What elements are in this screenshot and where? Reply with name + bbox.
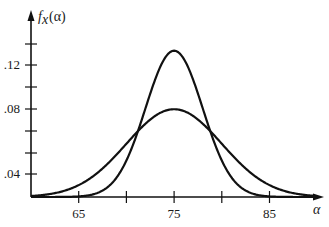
y-tick-label: .08 — [4, 101, 20, 116]
x-axis-title: α — [313, 202, 321, 217]
y-tick-labels: .12.08.04 — [4, 57, 21, 181]
curve-sd5 — [31, 109, 313, 196]
y-axis-arrow-icon — [28, 10, 35, 21]
y-tick-label: .12 — [4, 57, 20, 72]
x-axis-arrow-icon — [313, 194, 324, 201]
x-tick-label: 85 — [263, 206, 276, 221]
density-chart: .12.08.04 657585 fx(α) α — [0, 0, 329, 227]
x-tick-labels: 657585 — [72, 206, 276, 221]
x-tick-label: 75 — [168, 206, 181, 221]
y-axis-title: fx(α) — [38, 9, 66, 27]
curve-sd3 — [31, 51, 313, 197]
y-tick-label: .04 — [4, 166, 21, 181]
x-tick-label: 65 — [72, 206, 85, 221]
